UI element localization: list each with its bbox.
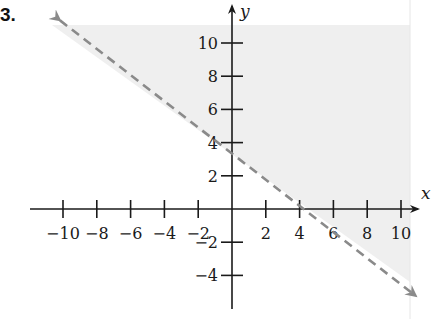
x-tick-label: 8 <box>362 224 372 243</box>
x-tick-label: 2 <box>261 224 271 243</box>
x-tick-label: −8 <box>85 224 109 243</box>
y-tick-label: 2 <box>208 167 218 186</box>
x-tick-label: −10 <box>46 224 80 243</box>
inequality-graph: −10−8−6−4−2246810 −4−2246810 x y <box>0 0 436 319</box>
y-axis-label: y <box>239 1 250 21</box>
y-tick-label: 8 <box>208 67 218 86</box>
y-tick-label: −4 <box>194 266 218 285</box>
y-tick-label: −2 <box>194 233 218 252</box>
x-tick-label: 4 <box>295 224 305 243</box>
x-tick-label: −4 <box>153 224 177 243</box>
y-tick-label: 10 <box>198 34 218 53</box>
x-tick-label: 10 <box>391 224 411 243</box>
x-tick-label: −6 <box>119 224 143 243</box>
y-tick-label: 6 <box>208 100 218 119</box>
x-axis-label: x <box>421 183 431 203</box>
